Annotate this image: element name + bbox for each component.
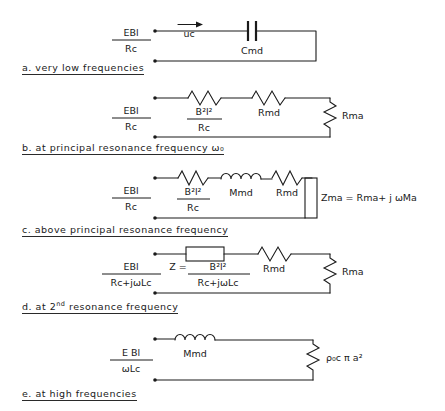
impedance-z-prefix-d: Z =	[169, 261, 187, 272]
inductor-mmd-label-c: Mmd	[229, 187, 252, 198]
inductor-mmd-symbol-e	[175, 335, 215, 341]
load-zma-box-c	[305, 178, 317, 218]
resistor-b2l2-rc-symbol-c	[178, 171, 208, 185]
load-rma-symbol-d	[324, 254, 336, 293]
circuit-block-e: E Bl ωLc Mmd ρ₀c π a² e. at high frequen…	[0, 325, 445, 411]
resistor-b-denominator: Rc	[198, 122, 210, 133]
circuit-block-d: EBl Rc+jωLc Z = B²l² Rc+jωLc Rmd Rma d. …	[0, 243, 445, 321]
source-denominator-d: Rc+jωLc	[111, 277, 152, 288]
capacitor-label-cmd: Cmd	[241, 45, 263, 56]
caption-d-text-before: at 2	[36, 301, 57, 312]
caption-d: d. at 2nd resonance frequency	[22, 300, 178, 314]
circuit-block-b: EBl Rc B²l² Rc Rmd Rma b. at principal r…	[0, 80, 445, 155]
resistor-rmd-label-d: Rmd	[263, 263, 285, 274]
resistor-rmd-symbol-d	[258, 247, 291, 261]
resistor-rmd-symbol-c	[272, 171, 302, 185]
resistor-b2l2-rc-symbol-b	[188, 91, 221, 105]
caption-d-letter: d.	[22, 301, 32, 312]
load-rma-label-b: Rma	[342, 110, 364, 121]
caption-b: b. at principal resonance frequency ω₀	[22, 142, 224, 155]
load-rma-label-d: Rma	[342, 266, 364, 277]
load-radiation-symbol-e	[307, 340, 319, 380]
caption-c: c. above principal resonance frequency	[22, 224, 228, 237]
source-numerator-c: EBl	[123, 185, 138, 196]
caption-e: e. at high frequencies	[22, 388, 137, 401]
source-denominator-b: Rc	[125, 121, 137, 132]
source-numerator-d: EBl	[123, 261, 138, 272]
current-label-uc: uc	[183, 28, 194, 39]
resistor-c-numerator: B²l²	[185, 186, 202, 197]
caption-d-superscript: nd	[56, 300, 65, 308]
resistor-c-denominator: Rc	[187, 202, 199, 213]
resistor-b-numerator: B²l²	[196, 106, 213, 117]
load-radiation-label-e: ρ₀c π a²	[326, 352, 363, 363]
source-numerator-e: E Bl	[122, 347, 140, 358]
source-numerator-a: EBl	[123, 27, 138, 38]
circuit-block-a: EBl Rc uc Cmd a. very low frequencies	[0, 0, 445, 75]
impedance-z-denominator-d: Rc+jωLc	[198, 277, 239, 288]
caption-a: a. very low frequencies	[22, 62, 144, 75]
wire-return-a	[155, 31, 316, 61]
circuit-figure: EBl Rc uc Cmd a. very low frequencies EB…	[0, 0, 445, 411]
source-denominator-c: Rc	[125, 201, 137, 212]
load-zma-label-c: Zma = Rma+ j ωMa	[321, 192, 417, 203]
load-rma-symbol-b	[324, 98, 336, 137]
inductor-mmd-symbol-c	[221, 174, 261, 180]
resistor-rmd-label-c: Rmd	[276, 187, 298, 198]
caption-d-text-after: resonance frequency	[69, 301, 178, 312]
circuit-block-c: EBl Rc B²l² Rc Mmd Rmd Zma = Rma+ j ωMa …	[0, 160, 445, 238]
current-arrow-head-a	[196, 22, 203, 28]
source-denominator-a: Rc	[125, 43, 137, 54]
source-denominator-e: ωLc	[122, 363, 140, 374]
resistor-rmd-symbol-b	[252, 91, 285, 105]
resistor-rmd-label-b: Rmd	[258, 107, 280, 118]
impedance-z-box-symbol-d	[186, 247, 224, 261]
impedance-z-numerator-d: B²l²	[210, 261, 227, 272]
inductor-mmd-label-e: Mmd	[183, 348, 206, 359]
source-numerator-b: EBl	[123, 105, 138, 116]
